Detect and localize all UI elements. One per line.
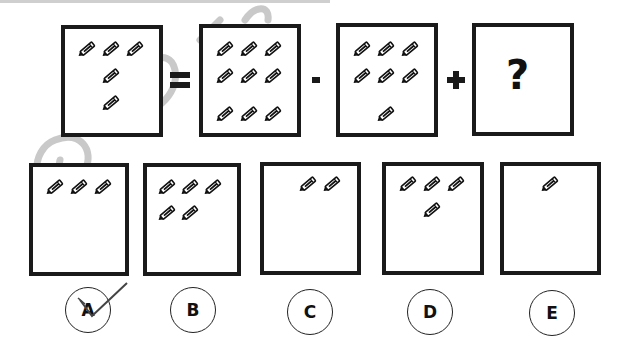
pencil-icon (201, 175, 225, 199)
pencil-icon (420, 172, 444, 196)
option-box-b[interactable] (143, 163, 241, 276)
pencil-icon (178, 201, 202, 225)
pencil-icon (155, 175, 179, 199)
equation-box-subtrahend (336, 23, 438, 137)
pencil-icon (155, 201, 179, 225)
pencil-icon (398, 37, 422, 61)
equation-box-lhs (61, 25, 163, 137)
option-label-d[interactable]: D (407, 289, 453, 335)
pencil-icon (261, 64, 285, 88)
option-label-text: E (546, 303, 558, 323)
pencil-icon (374, 102, 398, 126)
pencil-icon (261, 102, 285, 126)
option-box-a[interactable] (29, 163, 129, 276)
option-label-text: C (304, 302, 316, 322)
pencil-icon (320, 172, 344, 196)
pencil-icon (420, 198, 444, 222)
pencil-icon (444, 172, 468, 196)
pencil-icon (213, 37, 237, 61)
option-box-c[interactable] (260, 162, 361, 275)
pencil-icon (99, 91, 123, 115)
pencil-icon (75, 37, 99, 61)
pencil-icon (213, 102, 237, 126)
pencil-icon (67, 175, 91, 199)
pencil-icon (237, 37, 261, 61)
pencil-icon (374, 37, 398, 61)
pencil-icon (213, 64, 237, 88)
equation-box-minuend (199, 24, 301, 137)
top-edge-line (0, 0, 330, 3)
pencil-icon (43, 175, 67, 199)
pencil-icon (237, 64, 261, 88)
minus-operator-icon (312, 77, 320, 83)
option-label-b[interactable]: B (170, 287, 216, 333)
pencil-icon (99, 37, 123, 61)
option-box-e[interactable] (500, 162, 601, 275)
equation-box-unknown: ? (472, 23, 574, 136)
pencil-icon (398, 64, 422, 88)
option-box-d[interactable] (382, 162, 484, 275)
pencil-icon (350, 64, 374, 88)
pencil-icon (538, 172, 562, 196)
pencil-icon (237, 102, 261, 126)
pencil-icon (99, 64, 123, 88)
pencil-icon (374, 64, 398, 88)
checkmark-icon (75, 280, 135, 330)
option-label-text: B (187, 300, 200, 320)
pencil-icon (296, 172, 320, 196)
pencil-icon (396, 172, 420, 196)
pencil-icon (178, 175, 202, 199)
option-label-e[interactable]: E (529, 290, 575, 336)
pencil-icon (123, 37, 147, 61)
pencil-icon (350, 37, 374, 61)
option-label-text: D (423, 302, 437, 322)
option-label-c[interactable]: C (287, 289, 333, 335)
pencil-icon (91, 175, 115, 199)
pencil-icon (261, 37, 285, 61)
question-mark: ? (506, 52, 529, 98)
